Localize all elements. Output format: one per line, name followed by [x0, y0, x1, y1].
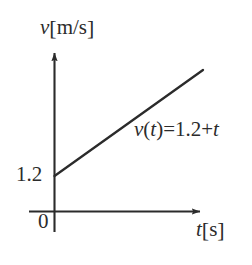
y-intercept-tick-label: 1.2 — [16, 164, 42, 185]
equation-plus-sign: + — [201, 117, 213, 141]
y-axis-variable: v — [40, 15, 49, 39]
x-axis-label: t[s] — [196, 218, 225, 240]
y-axis-unit: m/s — [57, 15, 87, 39]
y-axis-label: v[m/s] — [40, 16, 94, 38]
y-axis-open-bracket: [ — [49, 15, 56, 40]
equation-annotation: v(t)=1.2+t — [134, 119, 219, 140]
x-axis-open-bracket: [ — [202, 217, 209, 242]
origin-label: 0 — [38, 211, 49, 232]
x-axis-close-bracket: ] — [217, 217, 224, 242]
velocity-time-graph-figure: v[m/s] 1.2 0 t[s] v(t)=1.2+t — [0, 0, 252, 265]
equation-time-variable: t — [213, 117, 219, 141]
equation-equals-sign: = — [163, 117, 175, 141]
equation-intercept-value: 1.2 — [175, 117, 201, 141]
x-axis-variable: t — [196, 217, 202, 241]
equation-function-name: v — [134, 117, 143, 141]
y-axis-close-bracket: ] — [87, 15, 94, 40]
